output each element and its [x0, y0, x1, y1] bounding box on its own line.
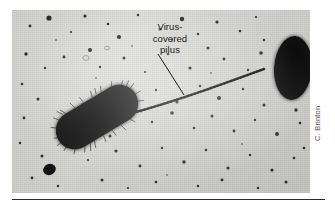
detached-particle	[42, 162, 58, 177]
annotation-label: Virus- covered pilus	[132, 21, 208, 56]
figure-divider-rule	[12, 199, 325, 200]
left-bacterium	[49, 78, 146, 157]
photo-credit: C. Brinton	[313, 106, 322, 141]
micrograph-image: Virus- covered pilus	[12, 10, 310, 193]
figure: Virus- covered pilus C. Brinton	[0, 0, 335, 208]
right-bacterium	[272, 35, 310, 101]
